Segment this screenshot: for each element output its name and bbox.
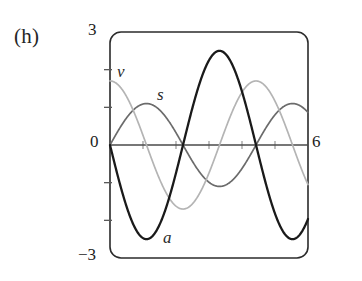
y-axis-zero-label: 0 xyxy=(90,132,99,152)
curve-label-v: v xyxy=(117,62,125,82)
curve-label-a: a xyxy=(163,228,172,248)
panel-label: (h) xyxy=(14,24,39,49)
y-axis-min-label: −3 xyxy=(78,245,96,265)
y-axis-max-label: 3 xyxy=(88,20,97,40)
figure-panel: (h) 3 0 −3 6 v s a xyxy=(0,0,362,281)
curve-label-s: s xyxy=(157,85,164,105)
plot-canvas xyxy=(0,0,362,281)
x-axis-max-label: 6 xyxy=(312,132,321,152)
